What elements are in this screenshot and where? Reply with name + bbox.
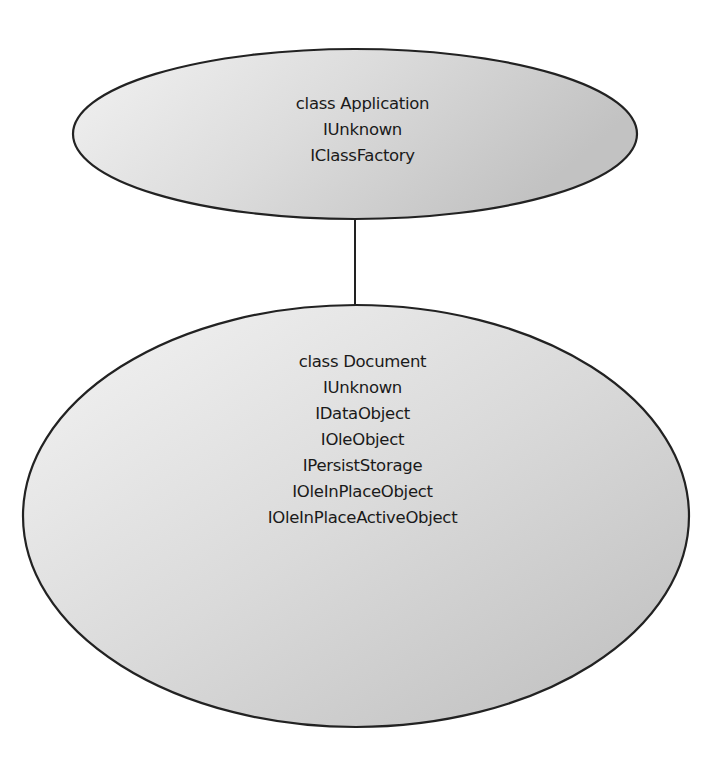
- application-node-label: class Application IUnknown IClassFactory: [0, 91, 725, 169]
- document-node-label: class Document IUnknown IDataObject IOle…: [0, 349, 725, 531]
- class-name-application: class Application: [0, 91, 725, 117]
- class-name-document: class Document: [0, 349, 725, 375]
- interface-iunknown: IUnknown: [0, 117, 725, 143]
- interface-ipersiststorage: IPersistStorage: [0, 453, 725, 479]
- interface-ioleobject: IOleObject: [0, 427, 725, 453]
- interface-iclassfactory: IClassFactory: [0, 143, 725, 169]
- interface-ioleinplaceobject: IOleInPlaceObject: [0, 479, 725, 505]
- interface-iunknown: IUnknown: [0, 375, 725, 401]
- interface-ioleinplaceactiveobject: IOleInPlaceActiveObject: [0, 505, 725, 531]
- interface-idataobject: IDataObject: [0, 401, 725, 427]
